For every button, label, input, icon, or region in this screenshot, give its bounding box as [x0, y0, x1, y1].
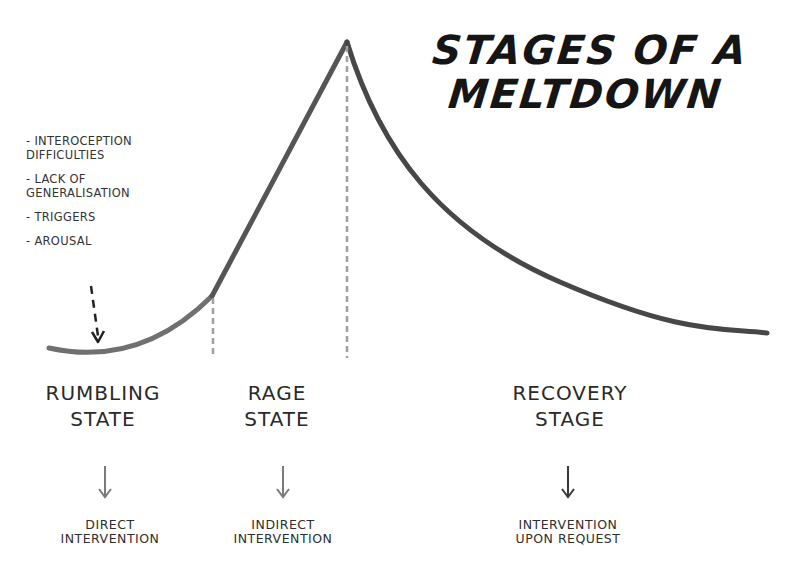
intervention-text: UPON REQUEST — [488, 532, 648, 546]
rumbling-curve-segment — [49, 296, 212, 352]
stage-label-text: STATE — [222, 406, 332, 432]
stage-label-recovery: RECOVERY STAGE — [470, 380, 670, 432]
rage-curve-segment — [212, 42, 347, 296]
intervention-text: INTERVENTION — [30, 532, 190, 546]
stage-label-rumbling: RUMBLING STATE — [18, 380, 188, 432]
title-line-1: STAGES OF A — [418, 28, 763, 72]
factor-text: GENERALISATION — [26, 186, 226, 200]
intervention-text: INDIRECT — [203, 518, 363, 532]
stage-label-text: RECOVERY — [470, 380, 670, 406]
intervention-text: DIRECT — [30, 518, 190, 532]
stage-label-text: RUMBLING — [18, 380, 188, 406]
intervention-rumbling: DIRECT INTERVENTION — [30, 518, 190, 546]
down-arrow-icon — [95, 464, 115, 500]
contributing-factors-list: - INTEROCEPTION DIFFICULTIES - LACK OF G… — [26, 134, 226, 258]
down-arrow-icon — [558, 464, 578, 500]
factor-item: - LACK OF GENERALISATION — [26, 172, 226, 200]
factor-text: DIFFICULTIES — [26, 148, 226, 162]
factor-item: - AROUSAL — [26, 234, 226, 248]
diagram-title: STAGES OF A MELTDOWN — [413, 28, 762, 116]
intervention-rage: INDIRECT INTERVENTION — [203, 518, 363, 546]
dashed-down-arrow-icon — [91, 286, 104, 342]
factor-text: - TRIGGERS — [26, 210, 226, 224]
factor-text: - INTEROCEPTION — [26, 134, 226, 148]
factor-text: - LACK OF — [26, 172, 226, 186]
intervention-text: INTERVENTION — [488, 518, 648, 532]
intervention-recovery: INTERVENTION UPON REQUEST — [488, 518, 648, 546]
down-arrow-icon — [273, 464, 293, 500]
stage-label-text: STATE — [18, 406, 188, 432]
title-line-2: MELTDOWN — [413, 72, 758, 116]
factor-item: - INTEROCEPTION DIFFICULTIES — [26, 134, 226, 162]
intervention-text: INTERVENTION — [203, 532, 363, 546]
stage-label-text: STAGE — [470, 406, 670, 432]
stage-label-text: RAGE — [222, 380, 332, 406]
stage-label-rage: RAGE STATE — [222, 380, 332, 432]
factor-item: - TRIGGERS — [26, 210, 226, 224]
factor-text: - AROUSAL — [26, 234, 226, 248]
